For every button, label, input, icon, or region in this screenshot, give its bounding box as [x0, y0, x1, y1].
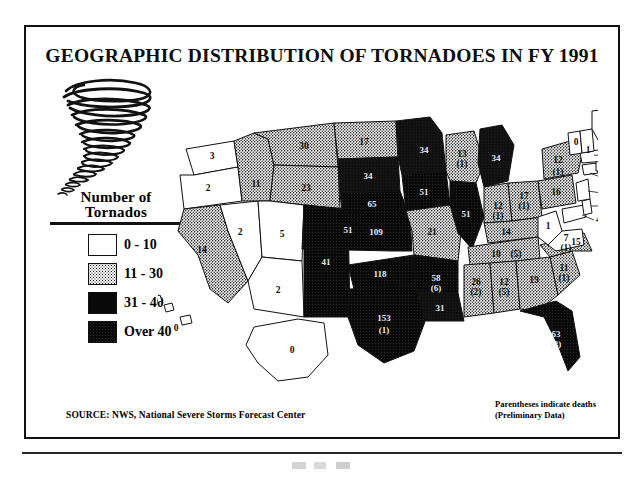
value-TX: 153	[377, 313, 391, 323]
state-HI	[180, 315, 192, 325]
value-GA: 19	[529, 275, 539, 285]
value-ID: 11	[252, 179, 261, 189]
footnote-line2: (Preliminary Data)	[495, 410, 596, 421]
value-OK: 118	[373, 269, 387, 279]
deaths-FL: (3)	[551, 339, 562, 349]
legend-label-0-10: 0 - 10	[124, 237, 157, 253]
state-HI-3	[158, 295, 162, 303]
deaths-TX: (1)	[379, 325, 390, 335]
legend-swatch-white	[88, 234, 117, 256]
figure-page: GEOGRAPHIC DISTRIBUTION OF TORNADOES IN …	[0, 0, 640, 478]
legend-swatch-dark	[88, 292, 117, 314]
value-AZ: 2	[276, 285, 281, 295]
value-MT: 30	[299, 141, 309, 151]
value-NY: 12	[553, 155, 563, 165]
value-MO: 21	[427, 227, 437, 237]
value-LA: 31	[436, 303, 446, 313]
us-choropleth-map: 41 51 65 109 118 153 (1) 34 34 51 58 (6)…	[158, 105, 598, 415]
deaths-SC: (1)	[558, 273, 569, 284]
value-UT: 5	[280, 229, 285, 239]
value-PA: 16	[551, 187, 561, 197]
value-IN: 12	[493, 201, 503, 211]
legend-swatch-dotted	[88, 263, 117, 285]
state-NJ	[576, 179, 590, 201]
value-TN: 10	[491, 249, 501, 259]
value-AK: 0	[290, 345, 295, 355]
value-VT: 0	[574, 137, 579, 147]
value-SC: 11	[560, 263, 569, 273]
footnote: Parentheses indicate deaths (Preliminary…	[495, 399, 596, 420]
state-TX	[348, 285, 426, 363]
state-HI-2	[164, 303, 174, 312]
value-NM: 41	[322, 257, 332, 267]
state-RI	[596, 161, 598, 171]
value-MI: 34	[492, 153, 502, 163]
deaths-OH: (1)	[518, 201, 529, 212]
value-HI: 0	[174, 323, 179, 333]
state-MD	[562, 205, 586, 223]
value-SD: 34	[364, 171, 374, 181]
legend-swatch-black	[88, 321, 117, 343]
value-AL: 12	[499, 277, 509, 287]
state-AK	[246, 319, 328, 381]
value-MN: 34	[420, 145, 430, 155]
page-rule	[22, 452, 622, 454]
value-KY: 14	[501, 227, 511, 237]
value-CO: 51	[344, 225, 354, 235]
deaths-MS: (2)	[470, 287, 481, 298]
value-WV: 1	[546, 221, 551, 231]
deaths-TN: (5)	[510, 249, 521, 260]
deaths-WI: (1)	[456, 159, 467, 170]
deaths-AL: (5)	[498, 287, 509, 298]
value-CA: 14	[197, 245, 207, 255]
value-WI: 13	[457, 149, 467, 159]
value-OR: 2	[206, 183, 211, 193]
value-MS: 26	[471, 277, 481, 287]
value-NE: 65	[368, 199, 378, 209]
value-ND: 17	[359, 137, 369, 147]
value-AR: 58	[432, 273, 442, 283]
source-note: SOURCE: NWS, National Severe Storms Fore…	[66, 410, 305, 420]
state-FL	[520, 301, 580, 371]
value-WA: 3	[210, 151, 215, 161]
value-VA: 7	[564, 233, 569, 243]
value-FL: 63	[552, 329, 562, 339]
value-WY: 23	[301, 183, 311, 193]
footnote-line1: Parentheses indicate deaths	[495, 399, 596, 410]
value-NC: 15	[571, 237, 581, 247]
deaths-VA: (1)	[560, 243, 571, 254]
scan-artifact	[292, 462, 358, 469]
value-IA: 51	[420, 187, 430, 197]
deaths-AR: (6)	[431, 283, 442, 293]
value-IL: 51	[462, 209, 472, 219]
value-NH: 1	[586, 145, 591, 155]
deaths-IN: (1)	[492, 211, 503, 222]
state-OR	[180, 167, 242, 209]
figure-frame: GEOGRAPHIC DISTRIBUTION OF TORNADOES IN …	[24, 25, 620, 439]
deaths-NY: (1)	[552, 167, 563, 178]
value-MD: 4	[596, 215, 598, 225]
value-OH: 17	[519, 191, 529, 201]
page-title: GEOGRAPHIC DISTRIBUTION OF TORNADOES IN …	[26, 45, 618, 67]
state-DE	[582, 199, 592, 215]
value-NV: 2	[238, 227, 243, 237]
value-KS: 109	[369, 227, 383, 237]
tornado-funnel-icon	[54, 75, 170, 197]
